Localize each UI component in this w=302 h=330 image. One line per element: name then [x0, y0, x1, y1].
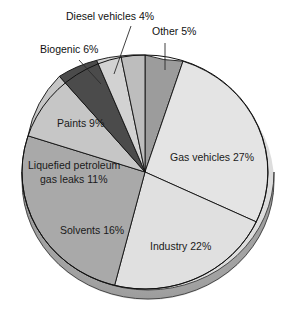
pie-label-other: Other 5% — [152, 25, 196, 37]
pie-chart-svg: Other 5% Gas vehicles 27% Industry 22% S… — [0, 0, 302, 330]
pie-label-lpg-leaks-line1: Liquefied petroleum — [28, 159, 120, 171]
pie-label-paints: Paints 9% — [57, 117, 104, 129]
pie-label-industry: Industry 22% — [150, 240, 211, 252]
pie-chart-figure: Other 5% Gas vehicles 27% Industry 22% S… — [0, 0, 302, 330]
pie-label-solvents: Solvents 16% — [60, 224, 124, 236]
pie-label-diesel-vehicles: Diesel vehicles 4% — [66, 10, 154, 22]
pie-label-gas-vehicles: Gas vehicles 27% — [170, 151, 254, 163]
pie-label-biogenic: Biogenic 6% — [40, 43, 98, 55]
pie-label-lpg-leaks-line2: gas leaks 11% — [40, 173, 108, 185]
